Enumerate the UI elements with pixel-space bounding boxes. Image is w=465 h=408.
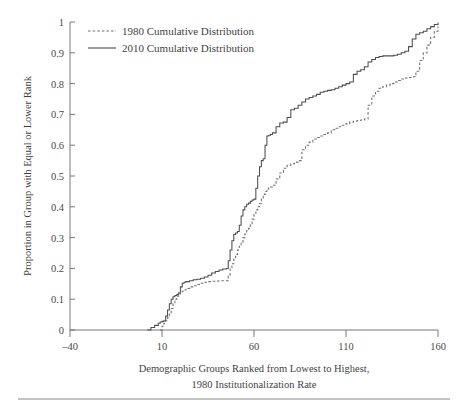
y-tick-label: 0.9 <box>51 48 64 59</box>
y-axis-title: Proportion in Group with Equal or Lower … <box>22 75 33 276</box>
y-tick-label: 0.4 <box>51 202 65 213</box>
y-tick-label: 0.6 <box>51 140 64 151</box>
y-tick-label: 0.5 <box>51 171 64 182</box>
y-tick-label: 0 <box>59 325 64 336</box>
x-tick-label: 110 <box>338 341 353 352</box>
chart-legend: 1980 Cumulative Distribution 2010 Cumula… <box>88 25 254 54</box>
x-axis-title-line2: 1980 Institutionalization Rate <box>192 379 317 390</box>
y-tick-label: 0.3 <box>51 233 64 244</box>
x-tick-label: 60 <box>249 341 260 352</box>
series-line-2010 <box>147 23 438 330</box>
x-tick-labels: –40 10 60 110 160 <box>61 341 446 352</box>
figure-container: 1 0.9 0.8 0.7 0.6 0.5 0.4 0.3 0.2 0.1 0 … <box>0 0 465 408</box>
x-tick-marks <box>70 330 438 337</box>
y-tick-label: 0.2 <box>51 263 64 274</box>
series-line-1980 <box>160 27 438 330</box>
y-tick-label: 1 <box>59 17 64 28</box>
y-tick-label: 0.1 <box>51 294 64 305</box>
x-tick-label: 10 <box>157 341 168 352</box>
y-tick-labels: 1 0.9 0.8 0.7 0.6 0.5 0.4 0.3 0.2 0.1 0 <box>51 17 65 336</box>
x-tick-label: –40 <box>61 341 78 352</box>
legend-label-1980: 1980 Cumulative Distribution <box>122 25 254 37</box>
x-axis-title-line1: Demographic Groups Ranked from Lowest to… <box>139 363 370 374</box>
y-tick-marks <box>70 22 75 330</box>
cumulative-distribution-chart: 1 0.9 0.8 0.7 0.6 0.5 0.4 0.3 0.2 0.1 0 … <box>0 0 465 408</box>
y-tick-label: 0.8 <box>51 79 64 90</box>
x-tick-label: 160 <box>430 341 446 352</box>
legend-label-2010: 2010 Cumulative Distribution <box>122 42 254 54</box>
y-tick-label: 0.7 <box>51 109 64 120</box>
